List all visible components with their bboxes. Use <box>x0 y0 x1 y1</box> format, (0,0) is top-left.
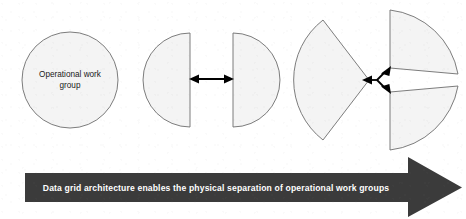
work-group-circle <box>22 32 118 128</box>
stage-whole-group: Operational work group <box>22 32 118 128</box>
work-group-label-line1: Operational work <box>39 70 102 79</box>
work-group-label-line2: group <box>60 81 81 90</box>
banner-caption: Data grid architecture enables the physi… <box>43 183 390 193</box>
figure-canvas: Operational work group <box>0 0 466 219</box>
data-grid-separation-diagram: Operational work group <box>0 0 466 219</box>
